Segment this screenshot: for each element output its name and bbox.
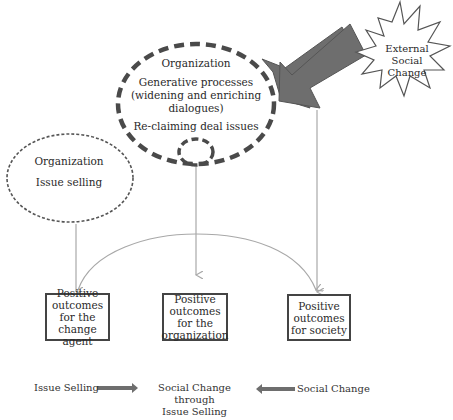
outcome-change-agent-box: Positive outcomes for the change agent	[45, 293, 110, 341]
legend-left-arrow-icon	[256, 384, 295, 394]
change-text: Change	[372, 67, 442, 79]
connecting-arc	[78, 234, 316, 290]
organization-left-label: Organization Issue selling	[14, 155, 124, 189]
outcome-change-agent-text: Positive outcomes for the change agent	[49, 287, 106, 347]
dialogues-text: dialogues)	[120, 102, 272, 115]
widening-enriching-text: (widening and enriching	[120, 89, 272, 102]
legend-social-change: Social Change	[297, 383, 370, 395]
issue-selling-text: Issue selling	[14, 176, 124, 189]
outcome-organization-text: Positive outcomes for the organization	[162, 293, 229, 341]
organization-main-title: Organization	[120, 57, 272, 70]
organization-left-title: Organization	[14, 155, 124, 168]
legend-social-change-through-issue-selling: Social Change through Issue Selling	[142, 382, 247, 418]
external-change-label: External Social Change	[372, 43, 442, 79]
generative-processes-text: Generative processes	[120, 76, 272, 89]
social-text: Social	[372, 55, 442, 67]
legend-middle-line1: Social Change through	[142, 382, 247, 406]
outcome-society-text: Positive outcomes for society	[291, 300, 347, 336]
legend-middle-line2: Issue Selling	[142, 406, 247, 418]
outcome-society-box: Positive outcomes for society	[287, 294, 351, 341]
outcome-organization-box: Positive outcomes for the organization	[162, 293, 228, 341]
external-text: External	[372, 43, 442, 55]
reclaiming-issues-text: Re-claiming deal issues	[120, 120, 272, 133]
legend-right-arrow-icon	[97, 383, 138, 393]
organization-main-label: Organization Generative processes (widen…	[120, 57, 272, 133]
legend-issue-selling: Issue Selling	[34, 382, 99, 394]
